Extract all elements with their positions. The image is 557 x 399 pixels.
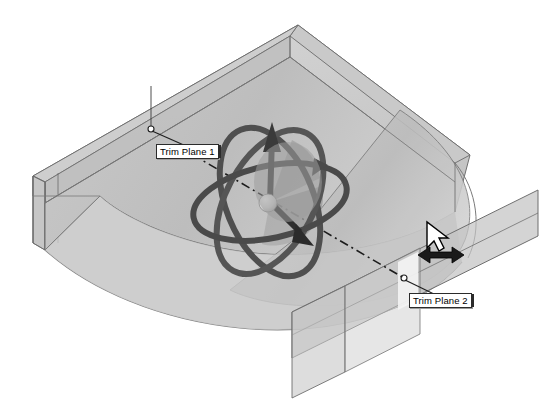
trim-plane-1-label[interactable]: Trim Plane 1 bbox=[156, 144, 219, 159]
trim-plane-2-label[interactable]: Trim Plane 2 bbox=[409, 293, 472, 308]
model-scene[interactable] bbox=[0, 0, 557, 399]
manipulator-inner-shade bbox=[254, 142, 322, 222]
cad-viewport[interactable]: Trim Plane 1 Trim Plane 2 bbox=[0, 0, 557, 399]
body-left-end-cap bbox=[33, 176, 45, 250]
